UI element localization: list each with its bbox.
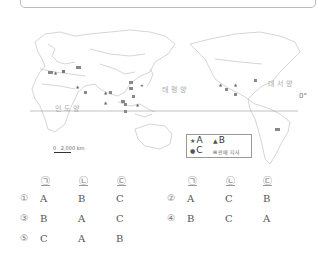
legend-b-label: B bbox=[219, 136, 225, 145]
header-right-2: ㉡ bbox=[226, 174, 235, 187]
branch-icon: ⊞ bbox=[213, 149, 217, 155]
option-number: ⑤ bbox=[20, 233, 40, 244]
map-legend: ★ A ▲ B ● C ⊞ 판매 지사 bbox=[186, 134, 252, 158]
scale-zero: 0 bbox=[53, 145, 56, 151]
svg-text:▲: ▲ bbox=[136, 102, 140, 107]
scale-line bbox=[54, 152, 71, 153]
option-1[interactable]: ① A B C bbox=[20, 193, 146, 204]
world-map: ▲ ▲ ▲ ▲ ★ ▲ ▲ ▲ bbox=[0, 14, 318, 174]
legend-c-label: C bbox=[196, 146, 202, 155]
option-value: B bbox=[78, 193, 116, 204]
option-value: C bbox=[116, 193, 146, 204]
option-value: B bbox=[40, 213, 78, 224]
equator-label: 0° bbox=[299, 92, 307, 100]
header-left-3: ㉢ bbox=[117, 174, 126, 187]
legend-branch-label: 판매 지사 bbox=[218, 148, 240, 155]
triangle-icon: ▲ bbox=[213, 137, 218, 144]
option-value: A bbox=[187, 193, 225, 204]
option-value: A bbox=[78, 213, 116, 224]
svg-text:★: ★ bbox=[140, 83, 144, 88]
scale-distance: 2,000 km bbox=[61, 145, 85, 151]
scale-bar: 0 2,000 km bbox=[53, 145, 84, 151]
option-value: C bbox=[40, 233, 78, 244]
option-2[interactable]: ② A C B bbox=[167, 193, 293, 204]
circle-icon: ● bbox=[190, 147, 195, 154]
option-value: B bbox=[263, 193, 293, 204]
header-right-1: ㉠ bbox=[188, 174, 197, 187]
header-right-3: ㉢ bbox=[263, 174, 272, 187]
star-icon: ★ bbox=[190, 137, 195, 144]
option-number: ④ bbox=[167, 213, 187, 224]
option-value: B bbox=[116, 233, 146, 244]
option-4[interactable]: ④ B C A bbox=[167, 213, 293, 224]
ocean-label-atlantic: 대서양 bbox=[268, 78, 295, 88]
question-box bbox=[20, 0, 316, 8]
option-value: A bbox=[263, 213, 293, 224]
ocean-label-indian: 인도양 bbox=[55, 103, 82, 113]
option-value: B bbox=[187, 213, 225, 224]
option-value: C bbox=[116, 213, 146, 224]
header-left-1: ㉠ bbox=[41, 174, 50, 187]
option-number: ② bbox=[167, 193, 187, 204]
ocean-label-pacific: 태평양 bbox=[162, 84, 189, 94]
option-value: A bbox=[78, 233, 116, 244]
svg-text:▲: ▲ bbox=[234, 82, 238, 87]
option-number: ③ bbox=[20, 213, 40, 224]
header-left-2: ㉡ bbox=[79, 174, 88, 187]
svg-text:▲: ▲ bbox=[76, 84, 80, 89]
option-number: ① bbox=[20, 193, 40, 204]
option-5[interactable]: ⑤ C A B bbox=[20, 233, 146, 244]
legend-a-label: A bbox=[196, 136, 202, 145]
option-value: C bbox=[225, 213, 263, 224]
option-value: C bbox=[225, 193, 263, 204]
option-value: A bbox=[40, 193, 78, 204]
svg-text:▲: ▲ bbox=[104, 100, 108, 105]
option-3[interactable]: ③ B A C bbox=[20, 213, 146, 224]
